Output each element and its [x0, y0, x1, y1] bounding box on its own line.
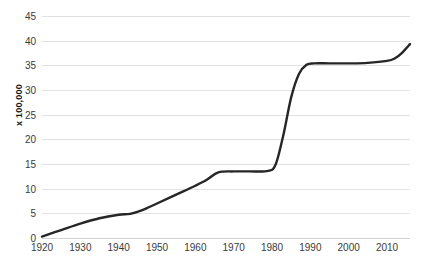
- x-tick-label: 1990: [299, 242, 321, 253]
- x-tick-label: 2010: [376, 242, 398, 253]
- y-tick-label: 10: [0, 183, 36, 194]
- y-tick-label: 25: [0, 109, 36, 120]
- x-tick-label: 1920: [31, 242, 53, 253]
- y-tick-label: 30: [0, 85, 36, 96]
- x-tick-label: 1980: [261, 242, 283, 253]
- x-axis-tick-labels: 1920193019401950196019701980199020002010: [42, 242, 410, 260]
- x-tick-label: 1940: [108, 242, 130, 253]
- x-tick-label: 1930: [69, 242, 91, 253]
- y-axis-tick-labels: 051015202530354045: [0, 16, 36, 238]
- y-tick-label: 20: [0, 134, 36, 145]
- x-tick-label: 1970: [223, 242, 245, 253]
- plot-area: [42, 16, 410, 238]
- data-line-series: [42, 16, 410, 238]
- y-tick-label: 40: [0, 35, 36, 46]
- y-tick-label: 45: [0, 11, 36, 22]
- y-tick-label: 5: [0, 208, 36, 219]
- series-path: [42, 44, 410, 236]
- gridline-0: [42, 238, 410, 239]
- y-tick-label: 15: [0, 159, 36, 170]
- x-tick-label: 2000: [338, 242, 360, 253]
- x-tick-label: 1960: [184, 242, 206, 253]
- x-tick-label: 1950: [146, 242, 168, 253]
- line-chart: x 100,000 051015202530354045 19201930194…: [0, 0, 422, 272]
- y-tick-label: 35: [0, 60, 36, 71]
